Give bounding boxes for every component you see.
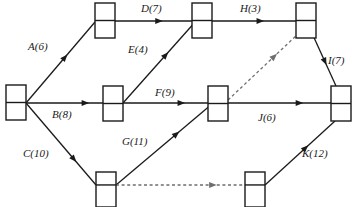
edge-b-label: B(8): [52, 108, 72, 121]
edge-j-arrowhead: [296, 100, 304, 106]
edge-f-arrowhead: [178, 100, 186, 106]
node-middle-center[interactable]: [208, 86, 228, 121]
edge-e-label: E(4): [127, 43, 148, 56]
node-top-right[interactable]: [296, 3, 316, 38]
edge-c-label: C(10): [23, 147, 49, 160]
edge-h-label: H(3): [239, 2, 261, 15]
edge-a-label: A(6): [27, 40, 48, 53]
edge-f-label: F(9): [154, 86, 175, 99]
node-bottom-right-box[interactable]: [245, 172, 265, 207]
edge-d-arrowhead: [155, 18, 163, 24]
node-middle-left[interactable]: [103, 86, 123, 121]
end-node[interactable]: [331, 86, 351, 121]
node-bottom-right[interactable]: [245, 172, 265, 207]
start-node[interactable]: [6, 85, 26, 120]
node-top-left[interactable]: [95, 3, 115, 38]
edge-i-label: I(7): [327, 54, 345, 67]
node-top-middle[interactable]: [192, 3, 212, 38]
node-bottom-left[interactable]: [96, 172, 116, 207]
node-bottom-left-box[interactable]: [96, 172, 116, 207]
edge-b-arrowhead: [82, 100, 90, 106]
edge-dummy-2-arrowhead: [209, 182, 217, 188]
edge-h-arrowhead: [257, 18, 265, 24]
edge-g-label: G(11): [122, 135, 148, 148]
edge-k-label: K(12): [301, 147, 328, 160]
edge-dummy-1: [228, 34, 298, 100]
network-svg: A(6)B(8)C(10)D(7)E(4)F(9)G(11)H(3)I(7)J(…: [0, 0, 352, 207]
edge-j-label: J(6): [258, 111, 276, 124]
network-diagram: A(6)B(8)C(10)D(7)E(4)F(9)G(11)H(3)I(7)J(…: [0, 0, 352, 207]
edge-a: [26, 22, 95, 103]
edge-d-label: D(7): [140, 2, 162, 15]
